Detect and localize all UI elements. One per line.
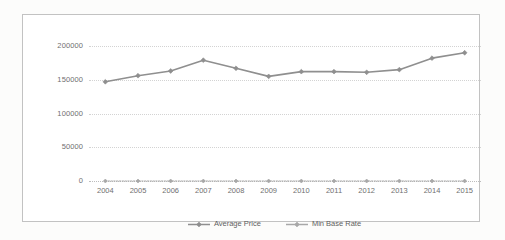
data-point-marker [332, 179, 336, 183]
data-point-marker [136, 179, 140, 183]
x-tick-label-2004: 2004 [88, 187, 122, 195]
data-point-marker [168, 69, 173, 74]
series-average-price [103, 50, 467, 84]
data-point-marker [234, 179, 238, 183]
series-line [105, 53, 464, 82]
x-axis-labels: 2004200520062007200820092010201120122013… [89, 187, 481, 199]
legend-item-min-base-rate[interactable]: Min Base Rate [285, 220, 361, 229]
x-tick-label-2011: 2011 [317, 187, 351, 195]
x-tick-label-2013: 2013 [382, 187, 416, 195]
legend-item-average-price[interactable]: Average Price [187, 220, 261, 229]
x-tick-label-2010: 2010 [284, 187, 318, 195]
data-point-marker [397, 179, 401, 183]
series-min-base-rate [103, 179, 466, 183]
y-tick-label-200000: 200000 [25, 42, 83, 50]
x-tick-label-2008: 2008 [219, 187, 253, 195]
data-point-marker [201, 58, 206, 63]
chart-frame: 200000150000100000500000 200420052006200… [22, 14, 480, 222]
y-tick-label-100000: 100000 [25, 110, 83, 118]
chart-page: 200000150000100000500000 200420052006200… [0, 0, 505, 240]
x-tick-label-2005: 2005 [121, 187, 155, 195]
data-point-marker [299, 69, 304, 74]
x-tick-label-2015: 2015 [448, 187, 482, 195]
data-point-marker [365, 179, 369, 183]
x-tick-label-2007: 2007 [186, 187, 220, 195]
data-point-marker [332, 69, 337, 74]
x-tick-label-2009: 2009 [252, 187, 286, 195]
series-layer [89, 35, 481, 195]
data-point-marker [201, 179, 205, 183]
x-tick-label-2012: 2012 [350, 187, 384, 195]
line-with-diamond-marker-icon [285, 220, 309, 229]
x-tick-label-2014: 2014 [415, 187, 449, 195]
data-point-marker [463, 179, 467, 183]
data-point-marker [136, 73, 141, 78]
line-with-diamond-marker-icon [187, 220, 211, 229]
data-point-marker [364, 70, 369, 75]
y-tick-label-0: 0 [25, 177, 83, 185]
data-point-marker [103, 179, 107, 183]
data-point-marker [397, 67, 402, 72]
data-point-marker [430, 56, 435, 61]
x-tick-label-2006: 2006 [154, 187, 188, 195]
data-point-marker [430, 179, 434, 183]
data-point-marker [267, 179, 271, 183]
data-point-marker [169, 179, 173, 183]
data-point-marker [299, 179, 303, 183]
y-tick-label-150000: 150000 [25, 76, 83, 84]
data-point-marker [103, 79, 108, 84]
y-tick-label-50000: 50000 [25, 144, 83, 152]
data-point-marker [462, 50, 467, 55]
legend-item-label: Min Base Rate [312, 220, 361, 228]
chart-legend: Average PriceMin Base Rate [45, 216, 503, 232]
data-point-marker [234, 66, 239, 71]
legend-item-label: Average Price [214, 220, 261, 228]
data-point-marker [266, 74, 271, 79]
